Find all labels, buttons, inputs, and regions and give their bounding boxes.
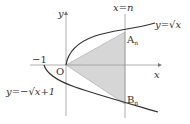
y-axis-label: y	[57, 8, 64, 19]
lower-curve-label: y=−√x+1	[5, 86, 55, 97]
x-axis-arrow-icon	[158, 63, 162, 67]
point-b-label: Bn	[127, 94, 138, 106]
vertical-line-label: x=n	[113, 2, 133, 13]
origin-label: O	[56, 66, 64, 77]
x-axis-label: x	[154, 69, 160, 80]
diagram: y x O −1 x=n y=√x y=−√x+1 An Bn	[0, 0, 190, 124]
upper-curve-label: y=√x	[154, 19, 181, 30]
point-a-label: An	[126, 34, 138, 46]
minus-one-label: −1	[32, 54, 47, 65]
y-axis-arrow-icon	[64, 11, 68, 15]
